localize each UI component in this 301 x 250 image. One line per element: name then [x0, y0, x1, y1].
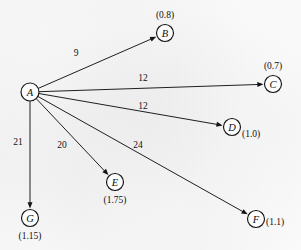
edge-a-g: 21 [13, 102, 32, 209]
edge-weight-label: 12 [138, 73, 148, 83]
node-label: B [162, 28, 169, 39]
node-label: D [227, 122, 236, 133]
edge-line [39, 84, 258, 91]
edge-a-d: 12 [39, 94, 222, 127]
edge-weight-label: 21 [13, 137, 23, 147]
edge-a-c: 12 [39, 73, 263, 92]
node-value-label: (1.1) [266, 217, 284, 228]
edge-line [39, 94, 217, 125]
arrow-head-icon [257, 82, 263, 87]
edge-weight-label: 9 [74, 48, 79, 58]
node-value-label: (0.7) [264, 61, 282, 72]
node-value-label: (1.75) [104, 195, 127, 206]
directed-graph: 91212202421AB(0.8)C(0.7)D(1.0)E(1.75)F(1… [0, 0, 301, 250]
edge-weight-label: 24 [133, 140, 143, 150]
edge-line [38, 97, 243, 212]
node-g[interactable]: G(1.15) [19, 210, 42, 243]
node-label: G [26, 213, 34, 224]
edge-line [39, 39, 152, 88]
arrow-head-icon [241, 209, 248, 214]
node-value-label: (1.15) [19, 231, 42, 242]
node-e[interactable]: E(1.75) [104, 174, 127, 207]
edge-line [37, 99, 105, 171]
arrow-head-icon [216, 122, 223, 127]
node-c[interactable]: C(0.7) [264, 61, 282, 93]
node-label: F [252, 214, 260, 225]
figure-canvas: 91212202421AB(0.8)C(0.7)D(1.0)E(1.75)F(1… [0, 0, 301, 250]
node-label: E [111, 177, 119, 188]
edge-weight-label: 12 [138, 101, 148, 111]
edge-a-f: 24 [38, 97, 247, 215]
edge-weight-label: 20 [57, 140, 67, 150]
edge-a-e: 20 [37, 99, 109, 175]
node-b[interactable]: B(0.8) [156, 10, 174, 42]
node-a[interactable]: A [21, 83, 39, 101]
node-d[interactable]: D(1.0) [224, 119, 261, 141]
arrow-head-icon [150, 37, 157, 42]
node-value-label: (1.0) [242, 129, 260, 140]
node-f[interactable]: F(1.1) [248, 211, 285, 229]
node-label: A [26, 87, 34, 98]
node-layer: AB(0.8)C(0.7)D(1.0)E(1.75)F(1.1)G(1.15) [19, 10, 285, 242]
node-label: C [269, 79, 277, 90]
node-value-label: (0.8) [156, 10, 174, 21]
arrow-head-icon [28, 202, 33, 208]
